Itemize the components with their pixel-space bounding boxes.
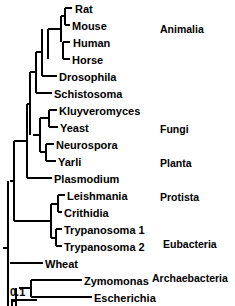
group-label-eubacteria: Eubacteria	[163, 239, 217, 250]
phylogenetic-tree-figure: Rat Mouse Human Horse Drosophila Schisto…	[0, 0, 235, 306]
leaf-label-escherichia: Escherichia	[94, 293, 156, 304]
leaf-label-wheat: Wheat	[45, 259, 78, 270]
leaf-label-neurospora: Neurospora	[56, 140, 118, 151]
leaf-label-plasmodium: Plasmodium	[54, 174, 119, 185]
leaf-label-kluyveromyces: Kluyveromyces	[59, 106, 140, 117]
leaf-label-horse: Horse	[72, 55, 103, 66]
leaf-label-schistosoma: Schistosoma	[54, 89, 122, 100]
group-label-fungi: Fungi	[160, 124, 189, 135]
leaf-label-drosophila: Drosophila	[59, 72, 116, 83]
group-label-protista: Protista	[160, 192, 199, 203]
leaf-label-trypanosoma-2: Trypanosoma 2	[64, 242, 145, 253]
leaf-label-yeast: Yeast	[60, 123, 89, 134]
leaf-label-yarli: Yarli	[58, 157, 81, 168]
leaf-label-mouse: Mouse	[72, 21, 107, 32]
leaf-label-trypanosoma-1: Trypanosoma 1	[64, 225, 145, 236]
leaf-label-human: Human	[73, 38, 110, 49]
group-label-animalia: Animalia	[160, 24, 204, 35]
scale-bar-label: 0.1	[10, 287, 25, 298]
group-label-archaebacteria: Archaebacteria	[152, 273, 228, 284]
leaf-label-zymomonas: Zymomonas	[84, 276, 149, 287]
tree-branches	[0, 0, 235, 306]
leaf-label-crithidia: Crithidia	[64, 208, 109, 219]
leaf-label-leishmania: Leishmania	[67, 191, 128, 202]
group-label-planta: Planta	[160, 158, 192, 169]
leaf-label-rat: Rat	[75, 4, 93, 15]
